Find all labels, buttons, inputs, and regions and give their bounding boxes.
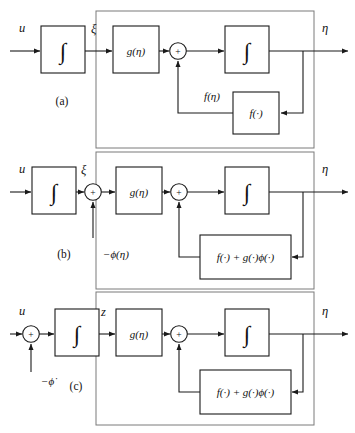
panel-a-output-tap-to-f-wire xyxy=(281,51,303,113)
panel-c-sum-2-plus-sign: + xyxy=(176,330,181,340)
panel-b-mid-label: ξ xyxy=(81,163,87,177)
panel-a-output-label: η xyxy=(322,21,328,35)
panel-c-id-label: (c) xyxy=(70,380,83,393)
panel-a: u ∫ ξ g(η) + ∫ η xyxy=(10,11,348,148)
panel-c: u + −ϕ̇ ∫ z g(η) + xyxy=(10,292,348,425)
panel-b: u ∫ ξ + −ϕ(η) g(η) + xyxy=(10,152,348,289)
panel-b-id-label: (b) xyxy=(57,248,71,261)
panel-b-input-label: u xyxy=(19,162,25,176)
panel-c-gain-label: g(η) xyxy=(130,328,149,341)
panel-a-input-label: u xyxy=(19,21,25,35)
panel-c-input-label: u xyxy=(19,304,25,318)
panel-b-feedback-to-sum2-wire xyxy=(179,202,200,257)
panel-c-feedback-combined-label: f(·) + g(·)ϕ(·) xyxy=(217,386,275,399)
panel-b-output-label: η xyxy=(322,162,328,176)
panel-b-gain-label: g(η) xyxy=(130,186,149,199)
panel-a-gain-label: g(η) xyxy=(127,45,146,58)
figure-canvas: u ∫ ξ g(η) + ∫ η xyxy=(0,0,355,433)
panel-a-mid-label: ξ xyxy=(91,22,97,36)
panel-c-mid-label: z xyxy=(100,305,106,319)
panel-c-sum-input-label: −ϕ̇ xyxy=(41,375,58,387)
panel-b-sum-input-label: −ϕ(η) xyxy=(103,248,129,261)
panel-b-output-tap-wire xyxy=(292,192,303,257)
panel-b-sum-2-plus-sign: + xyxy=(176,188,181,198)
block-diagram-svg: u ∫ ξ g(η) + ∫ η xyxy=(0,0,355,433)
panel-b-sum-1-plus-sign: + xyxy=(90,188,95,198)
panel-c-feedback-to-sum2-wire xyxy=(179,344,200,392)
panel-a-feedback-label: f(η) xyxy=(204,90,220,103)
panel-c-sum-1-plus-sign: + xyxy=(28,330,33,340)
panel-a-id-label: (a) xyxy=(56,95,69,108)
panel-c-output-tap-wire xyxy=(292,334,303,392)
panel-b-feedback-combined-label: f(·) + g(·)ϕ(·) xyxy=(217,251,275,264)
panel-c-output-label: η xyxy=(322,304,328,318)
panel-a-feedback-f-label: f(·) xyxy=(249,107,262,120)
panel-a-sum-plus-sign: + xyxy=(175,47,180,57)
